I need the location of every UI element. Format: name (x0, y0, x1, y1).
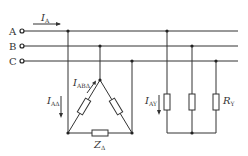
terminal-b-icon (20, 44, 24, 48)
phase-label-a: A (8, 26, 17, 37)
terminal-a-icon (20, 29, 24, 33)
delta-impedance-label: ZΔ (93, 139, 106, 151)
star-resistor-c (213, 94, 219, 110)
star-resistor-b (189, 94, 195, 110)
phase-current-delta-label: IABΔ (72, 77, 91, 89)
delta-resistor-ca (92, 130, 108, 136)
arrowhead-icon (56, 22, 61, 26)
star-resistor-a (164, 94, 170, 110)
line-current-star-label: IAY (144, 95, 158, 107)
delta-resistor-ab (77, 98, 90, 115)
line-current-delta-label: IAΔ (46, 95, 60, 107)
line-current-label: IA (40, 12, 50, 24)
phase-label-b: B (9, 41, 16, 52)
delta-resistor-bc (109, 98, 122, 115)
terminal-c-icon (20, 59, 24, 63)
star-resistance-label: RY (222, 95, 236, 107)
star-load (164, 29, 219, 134)
phase-label-c: C (9, 56, 17, 67)
circuit-diagram: A B C IA IABΔ (0, 0, 248, 156)
